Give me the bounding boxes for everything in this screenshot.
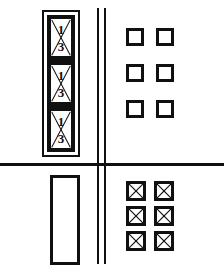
empty-square (126, 100, 144, 118)
fraction-denominator: 3 (51, 132, 71, 145)
fraction-cell: 1 3 (49, 109, 73, 150)
crossed-square (126, 206, 146, 226)
crossed-square (126, 181, 146, 201)
empty-square (126, 64, 144, 82)
empty-square (156, 100, 174, 118)
fraction-numerator: 1 (51, 23, 71, 36)
cross-mark-icon (129, 234, 143, 248)
diagram-canvas: 1 3 1 3 1 3 (0, 0, 224, 272)
fraction-stack-inner: 1 3 1 3 1 3 (47, 15, 75, 152)
cross-mark-icon (157, 209, 171, 223)
vertical-divider-line-right (104, 8, 106, 264)
crossed-square (154, 206, 174, 226)
cross-mark-icon (157, 234, 171, 248)
fraction-stack-outer-frame: 1 3 1 3 1 3 (42, 10, 80, 157)
cross-mark-icon (129, 209, 143, 223)
crossed-square (154, 181, 174, 201)
fraction-numerator: 1 (51, 69, 71, 82)
fraction-denominator: 3 (51, 40, 71, 53)
empty-tall-rectangle (50, 175, 80, 265)
crossed-square (126, 231, 146, 251)
vertical-divider-line-left (97, 8, 99, 264)
fraction-numerator: 1 (51, 115, 71, 128)
fraction-denominator: 3 (51, 86, 71, 99)
cross-mark-icon (129, 184, 143, 198)
fraction-cell: 1 3 (49, 17, 73, 58)
fraction-cell: 1 3 (49, 63, 73, 104)
empty-square (156, 28, 174, 46)
crossed-square-grid (126, 181, 174, 251)
cross-mark-icon (157, 184, 171, 198)
empty-square-grid (126, 28, 174, 118)
empty-square (156, 64, 174, 82)
crossed-square (154, 231, 174, 251)
empty-square (126, 28, 144, 46)
horizontal-divider (0, 163, 224, 166)
